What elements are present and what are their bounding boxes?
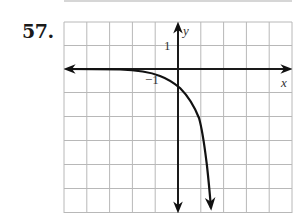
y-axis-label: y bbox=[181, 23, 189, 38]
x-axis-label: x bbox=[280, 75, 287, 90]
graph: 1 −1 y x bbox=[0, 0, 308, 215]
function-curve bbox=[66, 69, 211, 208]
x-tick-label-minus-1: −1 bbox=[145, 72, 159, 87]
axes bbox=[66, 24, 290, 211]
y-tick-label-1: 1 bbox=[164, 38, 171, 53]
